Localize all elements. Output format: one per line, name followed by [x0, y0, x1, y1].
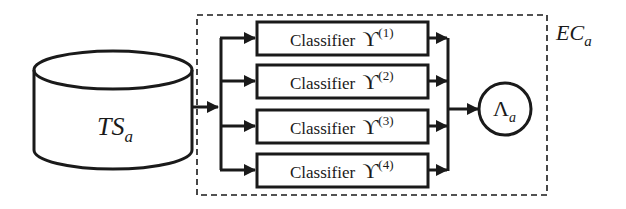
classifier-box-4: Classifier ϒ(4): [257, 154, 428, 187]
svg-text:Classifier ϒ(2): Classifier ϒ(2): [290, 68, 393, 94]
classifier-box-1: Classifier ϒ(1): [257, 22, 428, 55]
svg-text:Classifier ϒ(1): Classifier ϒ(1): [290, 25, 393, 51]
svg-text:Λa: Λa: [493, 96, 516, 125]
classifier-box-3: Classifier ϒ(3): [257, 110, 428, 143]
ensemble-label: ECa: [555, 20, 592, 49]
svg-text:Classifier ϒ(4): Classifier ϒ(4): [290, 157, 393, 183]
ensemble-classifier-diagram: ECa TSa Classifier ϒ(1) Classifier ϒ(2) …: [0, 0, 626, 209]
combiner-node: Λa: [479, 83, 531, 135]
svg-text:Classifier ϒ(3): Classifier ϒ(3): [290, 113, 393, 139]
training-set-label: TSa: [97, 112, 133, 146]
classifier-box-2: Classifier ϒ(2): [257, 65, 428, 98]
training-set-cylinder: TSa: [34, 51, 192, 169]
